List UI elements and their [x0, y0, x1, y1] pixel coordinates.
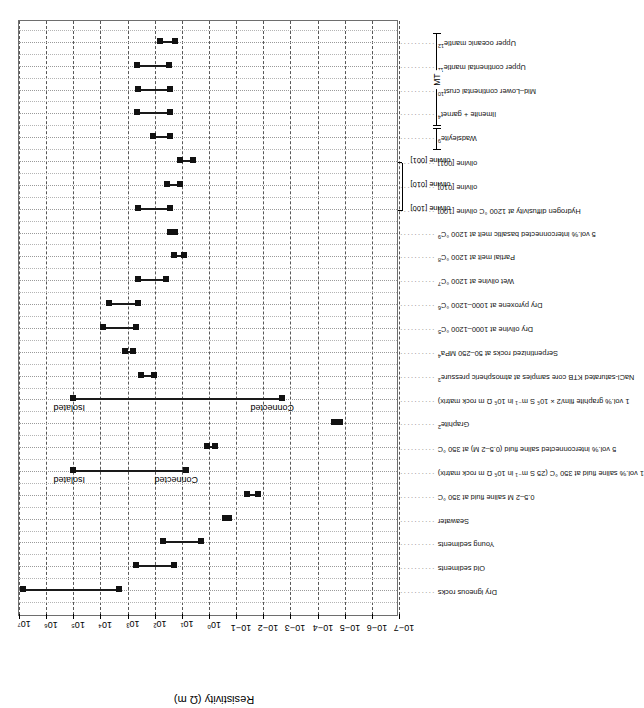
olivine-brace	[402, 163, 403, 211]
annotation-connected: Connected	[155, 475, 199, 485]
gridline-minor	[19, 30, 397, 31]
annotation-isolated: Isolated	[54, 475, 86, 485]
gridline-major	[155, 21, 156, 615]
y-tick-mark	[372, 614, 373, 619]
gridline-minor	[19, 101, 397, 102]
bracket-end-left	[433, 125, 441, 126]
range-bar	[125, 351, 132, 353]
gridline-minor	[19, 578, 397, 579]
gridline-category	[19, 304, 397, 305]
range-bar	[136, 565, 174, 567]
category-label: Partial melt at 1200 °C8 ··········	[399, 253, 515, 263]
olivine-leader	[398, 162, 402, 163]
range-bar	[103, 327, 136, 329]
range-cap-high	[177, 157, 183, 163]
range-bar	[334, 422, 340, 424]
range-bar	[225, 518, 229, 520]
gridline-major	[318, 21, 319, 615]
group-bracket	[436, 128, 437, 149]
category-label: Dry pyroxene at 1000–1200 °C6 ··········	[399, 301, 542, 311]
gridline-minor	[19, 125, 397, 126]
range-cap-high	[100, 324, 106, 330]
range-cap-high	[164, 181, 170, 187]
range-cap-low	[255, 491, 261, 497]
gridline-major	[73, 21, 74, 615]
gridline-category	[19, 495, 397, 496]
range-cap-low	[212, 443, 218, 449]
gridline-minor	[19, 54, 397, 55]
range-bar	[138, 89, 169, 91]
range-cap-low	[279, 395, 285, 401]
range-cap-high	[171, 252, 177, 258]
olivine-leader	[398, 210, 402, 211]
range-cap-high	[133, 562, 139, 568]
range-cap-high	[135, 86, 141, 92]
range-cap-low	[177, 181, 183, 187]
gridline-major	[128, 21, 129, 615]
gridline-category	[19, 256, 397, 257]
range-cap-high	[204, 443, 210, 449]
range-bar	[170, 232, 175, 234]
category-label: Dry igneous rocks ··········	[399, 588, 497, 597]
gridline-major	[100, 21, 101, 615]
range-cap-low	[166, 62, 172, 68]
annotation-isolated: Isolated	[54, 403, 86, 413]
range-cap-low	[151, 372, 157, 378]
range-cap-high	[157, 38, 163, 44]
gridline-minor	[19, 173, 397, 174]
gridline-major	[46, 21, 47, 615]
range-cap-low	[172, 38, 178, 44]
range-cap-low	[337, 419, 343, 425]
range-bar	[73, 470, 186, 472]
y-tick-mark	[73, 614, 74, 619]
range-cap-low	[167, 205, 173, 211]
gridline-major	[372, 21, 373, 615]
gridline-minor	[19, 78, 397, 79]
gridline-category	[19, 90, 397, 91]
y-tick-mark	[209, 614, 210, 619]
y-tick-mark	[263, 614, 264, 619]
category-label: 5 vol.% interconnected basaltic melt at …	[399, 229, 596, 239]
gridline-major	[209, 21, 210, 615]
gridline-category	[19, 209, 397, 210]
gridline-category	[19, 566, 397, 567]
range-cap-high	[134, 109, 140, 115]
gridline-minor	[19, 149, 397, 150]
bracket-end-right	[433, 33, 441, 34]
range-bar	[138, 279, 165, 281]
gridline-major	[263, 21, 264, 615]
category-label: Upper continental mantle11 ··········	[399, 62, 526, 72]
range-bar	[23, 589, 119, 591]
range-cap-high	[134, 62, 140, 68]
gridline-category	[19, 161, 397, 162]
y-tick-mark	[19, 614, 20, 619]
range-cap-high	[138, 372, 144, 378]
category-label: Dry olivine at 1000–1200 °C5 ··········	[399, 325, 533, 335]
range-bar	[167, 184, 179, 186]
category-label: Serpentinized rocks at 50–250 MPa4 ·····…	[399, 349, 558, 359]
gridline-category	[19, 519, 397, 520]
gridline-minor	[19, 602, 397, 603]
range-bar	[180, 160, 193, 162]
gridline-minor	[19, 244, 397, 245]
range-cap-high	[135, 276, 141, 282]
range-cap-low	[130, 348, 136, 354]
gridline-category	[19, 66, 397, 67]
group-bracket-label: MT	[432, 70, 442, 88]
gridline-major	[236, 21, 237, 615]
gridline-major	[345, 21, 346, 615]
gridline-minor	[19, 292, 397, 293]
y-tick-mark	[100, 614, 101, 619]
range-cap-low	[226, 515, 232, 521]
annotation-connected: Connected	[251, 403, 295, 413]
range-cap-high	[70, 467, 76, 473]
range-cap-low	[135, 300, 141, 306]
range-bar	[163, 541, 201, 543]
gridline-minor	[19, 316, 397, 317]
y-tick-mark	[128, 614, 129, 619]
gridline-category	[19, 280, 397, 281]
y-tick-mark	[345, 614, 346, 619]
category-label: Ilmenite + garnet4 ··········	[399, 110, 496, 120]
range-bar	[174, 255, 185, 257]
y-tick-mark	[155, 614, 156, 619]
